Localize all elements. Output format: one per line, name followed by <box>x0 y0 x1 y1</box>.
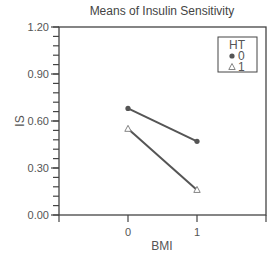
chart-title: Means of Insulin Sensitivity <box>90 4 235 18</box>
x-axis-label: BMI <box>151 239 172 253</box>
y-tick-label: 1.20 <box>28 21 49 33</box>
filled-circle-marker <box>194 139 199 144</box>
series-layer <box>125 106 200 193</box>
y-tick-label: 0.30 <box>28 162 49 174</box>
series-ht-0 <box>125 106 199 144</box>
y-tick-label: 0.00 <box>28 209 49 221</box>
legend: HT 01 <box>218 37 257 74</box>
open-triangle-marker <box>125 125 131 131</box>
filled-circle-marker <box>125 106 130 111</box>
legend-label: 1 <box>238 60 245 74</box>
y-tick-label: 0.60 <box>28 115 49 127</box>
x-axis: 01 <box>59 215 266 238</box>
series-ht-1 <box>125 125 200 192</box>
y-tick-label: 0.90 <box>28 68 49 80</box>
y-axis: 0.000.300.600.901.20 <box>28 21 59 221</box>
x-tick-label: 1 <box>194 226 200 238</box>
series-line <box>128 129 197 190</box>
filled-circle-marker <box>229 53 234 58</box>
x-tick-label: 0 <box>125 226 131 238</box>
chart: Means of Insulin Sensitivity 0.000.300.6… <box>0 0 274 260</box>
series-line <box>128 108 197 141</box>
y-axis-label: IS <box>13 115 27 126</box>
